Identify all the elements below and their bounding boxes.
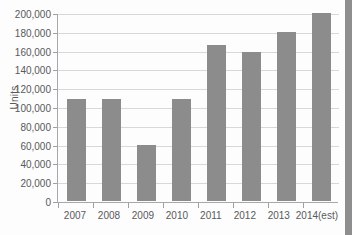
y-tick-label: 20,000	[20, 178, 51, 189]
y-tick-label: 60,000	[20, 140, 51, 151]
bar-chart: Units 020,00040,00060,00080,000100,00012…	[0, 0, 352, 235]
y-tick-mark	[53, 127, 57, 128]
x-tick-label: 2007	[58, 210, 92, 221]
bar-slot	[94, 13, 129, 201]
bar	[277, 32, 296, 201]
x-axis-labels: 20072008200920102011201220132014(est)	[58, 210, 338, 221]
y-tick-label: 120,000	[15, 84, 51, 95]
bar-slot	[269, 13, 304, 201]
x-tick-mark	[233, 203, 234, 208]
x-tick-slot	[58, 203, 93, 208]
y-tick-label: 40,000	[20, 159, 51, 170]
x-tick-label: 2011	[194, 210, 228, 221]
y-tick-label: 0	[45, 197, 51, 208]
y-tick-mark	[53, 14, 57, 15]
y-tick-mark	[53, 33, 57, 34]
y-tick-mark	[53, 183, 57, 184]
bar	[172, 99, 191, 201]
bar-slot	[129, 13, 164, 201]
y-tick-mark	[53, 146, 57, 147]
y-tick-label: 200,000	[15, 9, 51, 20]
x-tick-label: 2012	[228, 210, 262, 221]
bar	[312, 13, 331, 201]
x-tick-mark	[128, 203, 129, 208]
page-edge-strip	[345, 0, 352, 235]
bar-slot	[199, 13, 234, 201]
bar-slot	[304, 13, 339, 201]
x-tick-mark	[268, 203, 269, 208]
x-tick-mark	[163, 203, 164, 208]
x-axis-ticks	[58, 203, 338, 208]
y-axis-title: Units	[9, 68, 20, 128]
x-tick-slot	[268, 203, 303, 208]
bar	[137, 145, 156, 201]
x-tick-mark	[93, 203, 94, 208]
x-tick-label: 2009	[126, 210, 160, 221]
y-tick-label: 180,000	[15, 27, 51, 38]
bar-slot	[164, 13, 199, 201]
x-tick-slot	[198, 203, 233, 208]
plot-frame	[57, 14, 338, 203]
y-tick-mark	[53, 164, 57, 165]
y-tick-mark	[53, 52, 57, 53]
y-tick-mark	[53, 70, 57, 71]
x-tick-mark	[58, 203, 59, 208]
x-tick-label: 2010	[160, 210, 194, 221]
bar	[67, 99, 86, 201]
y-tick-label: 100,000	[15, 103, 51, 114]
bar	[102, 99, 121, 201]
x-tick-slot	[128, 203, 163, 208]
bar	[207, 45, 226, 201]
x-tick-slot	[93, 203, 128, 208]
x-tick-mark	[198, 203, 199, 208]
x-tick-slot	[233, 203, 268, 208]
bar-series	[59, 13, 339, 201]
x-tick-mark	[303, 203, 304, 208]
bar-slot	[234, 13, 269, 201]
x-tick-slot	[163, 203, 198, 208]
x-tick-label: 2014(est)	[296, 210, 338, 221]
x-tick-label: 2013	[262, 210, 296, 221]
x-tick-slot	[303, 203, 338, 208]
y-tick-mark	[53, 202, 57, 203]
y-tick-label: 80,000	[20, 121, 51, 132]
bar	[242, 52, 261, 201]
x-tick-label: 2008	[92, 210, 126, 221]
y-tick-label: 160,000	[15, 46, 51, 57]
bar-slot	[59, 13, 94, 201]
y-tick-mark	[53, 89, 57, 90]
y-tick-label: 140,000	[15, 65, 51, 76]
plot-area: 020,00040,00060,00080,000100,000120,0001…	[57, 14, 338, 203]
y-tick-mark	[53, 108, 57, 109]
